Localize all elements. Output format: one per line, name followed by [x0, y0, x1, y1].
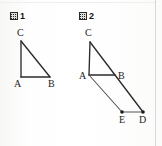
figure-2-vertex-label-E: E [119, 115, 125, 125]
figure-2-vertex-label-C: C [85, 28, 92, 38]
diagram-page: 1 C A B 2 C A B E D [0, 0, 162, 146]
figure-2-vertex-label-B: B [118, 71, 125, 81]
figure-2-vertex-label-D: D [139, 115, 146, 125]
figure-2-edge-C-A [89, 42, 90, 75]
figure-2-edge-C-D [90, 42, 143, 112]
figure-2-vertex-label-A: A [79, 71, 86, 81]
